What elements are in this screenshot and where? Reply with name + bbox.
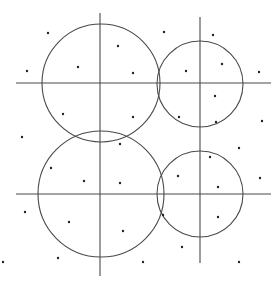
point-dot xyxy=(117,45,119,47)
point-dot xyxy=(177,175,179,177)
diagram-background xyxy=(0,0,280,285)
point-dot xyxy=(212,34,214,36)
point-dot xyxy=(2,261,4,263)
point-dot xyxy=(238,147,240,149)
point-dot xyxy=(215,121,217,123)
point-dot xyxy=(50,167,52,169)
point-dot xyxy=(24,211,26,213)
point-dot xyxy=(238,261,240,263)
point-dot xyxy=(21,136,23,138)
point-dot xyxy=(162,214,164,216)
point-dot xyxy=(185,70,187,72)
point-dot xyxy=(221,63,223,65)
point-dot xyxy=(132,72,134,74)
point-dot xyxy=(68,221,70,223)
point-dot xyxy=(258,71,260,73)
point-dot xyxy=(132,116,134,118)
point-dot xyxy=(47,32,49,34)
point-dot xyxy=(163,31,165,33)
point-dot xyxy=(261,120,263,122)
point-dot xyxy=(214,95,216,97)
point-dot xyxy=(62,113,64,115)
point-dot xyxy=(181,246,183,248)
point-dot xyxy=(217,186,219,188)
point-dot xyxy=(142,261,144,263)
point-dot xyxy=(209,156,211,158)
point-dot xyxy=(77,66,79,68)
point-dot xyxy=(83,180,85,182)
point-dot xyxy=(178,116,180,118)
point-dot xyxy=(122,230,124,232)
point-dot xyxy=(259,177,261,179)
point-dot xyxy=(217,216,219,218)
point-dot xyxy=(119,143,121,145)
point-dot xyxy=(26,70,28,72)
circles-and-lines-diagram xyxy=(0,0,280,285)
point-dot xyxy=(57,257,59,259)
point-dot xyxy=(119,182,121,184)
